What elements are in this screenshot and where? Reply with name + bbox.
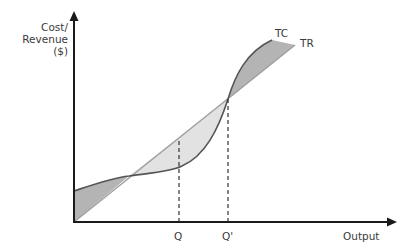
tc-label: TC: [275, 27, 288, 39]
x-axis-arrow-icon: [387, 218, 397, 227]
tr-label: TR: [300, 37, 314, 49]
q-label: Q: [174, 230, 182, 242]
y-axis-arrow-icon: [70, 11, 79, 21]
tr-line: [74, 45, 295, 222]
tc-curve: [74, 40, 272, 191]
q-prime-label: Q': [222, 230, 233, 242]
y-axis-label: Cost/ Revenue ($): [0, 21, 68, 57]
y-axis-label-line-1: Cost/: [0, 21, 68, 33]
y-axis-label-line-3: ($): [0, 45, 68, 57]
x-axis-label: Output: [343, 230, 379, 242]
y-axis-label-line-2: Revenue: [0, 33, 68, 45]
